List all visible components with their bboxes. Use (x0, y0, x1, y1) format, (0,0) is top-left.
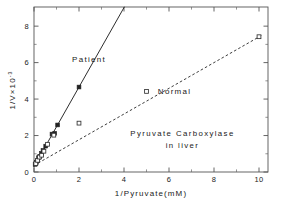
x-tick-label: 10 (254, 175, 263, 184)
marker-normal (46, 142, 50, 146)
x-tick-label: 4 (122, 175, 127, 184)
y-tick-label: 0 (24, 168, 29, 177)
x-axis-title: 1/Pyruvate(mM) (115, 189, 187, 198)
marker-normal (77, 121, 81, 125)
series-label-normal: Normal (158, 87, 192, 96)
marker-patient (56, 123, 60, 127)
chart-container: 0246810 02468 PatientNormal 1/Pyruvate(m… (0, 0, 284, 202)
marker-patient (77, 85, 81, 89)
annotation-line-1: in liver (166, 141, 200, 150)
x-tick-label: 0 (32, 175, 37, 184)
lineweaver-burk-plot: 0246810 02468 PatientNormal 1/Pyruvate(m… (0, 0, 284, 202)
y-tick-label: 4 (24, 95, 29, 104)
x-tick-label: 2 (77, 175, 82, 184)
y-tick-label: 6 (24, 58, 29, 67)
marker-normal (52, 133, 56, 137)
marker-normal (145, 90, 149, 94)
x-tick-label: 6 (167, 175, 172, 184)
marker-normal (257, 35, 261, 39)
y-tick-label: 2 (24, 131, 29, 140)
annotation-line-0: Pyruvate Carboxylase (130, 129, 234, 138)
marker-normal (42, 149, 46, 153)
x-tick-label: 8 (212, 175, 217, 184)
series-label-patient: Patient (72, 55, 106, 64)
marker-normal (40, 153, 44, 157)
y-tick-label: 8 (24, 22, 29, 31)
